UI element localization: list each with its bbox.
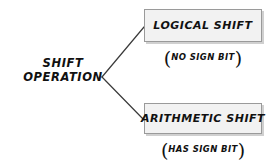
note-logical-shift: (NO SIGN BIT)	[144, 47, 262, 68]
note-close-paren-logical: )	[235, 47, 242, 69]
node-box-logical-shift: LOGICAL SHIFT	[144, 9, 262, 42]
node-box-arithmetic-shift-label: ARITHMETIC SHIFT	[141, 112, 265, 125]
note-text-arithmetic: HAS SIGN BIT	[168, 144, 237, 154]
node-box-arithmetic-shift: ARITHMETIC SHIFT	[144, 103, 262, 134]
shift-operation-diagram: SHIFT OPERATION LOGICAL SHIFT (NO SIGN B…	[0, 0, 273, 165]
note-close-paren-arithmetic: )	[238, 139, 245, 161]
note-arithmetic-shift: (HAS SIGN BIT)	[144, 139, 262, 160]
node-box-logical-shift-label: LOGICAL SHIFT	[153, 19, 252, 32]
root-label-line-1: SHIFT	[14, 57, 112, 71]
root-label-line-2: OPERATION	[14, 71, 112, 85]
note-text-logical: NO SIGN BIT	[171, 52, 234, 62]
root-node-label: SHIFT OPERATION	[14, 57, 112, 84]
